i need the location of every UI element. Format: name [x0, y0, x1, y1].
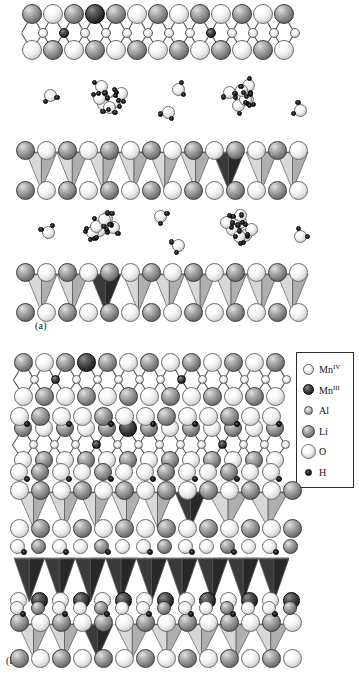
- atom-o-hydroxyl: [283, 539, 298, 554]
- atom-h: [20, 611, 26, 617]
- atom-slab-bottom: [262, 519, 281, 538]
- atom-h: [62, 611, 68, 617]
- atom-slab-top: [16, 141, 35, 160]
- atom-slab-bottom: [262, 649, 281, 668]
- atom-slab-bottom: [142, 181, 161, 200]
- atom-o-hydroxyl: [199, 539, 214, 554]
- atom-slab-bottom: [241, 519, 260, 538]
- atom-li: [56, 353, 75, 372]
- legend-item-label: Al: [319, 405, 329, 416]
- atom-slab-bottom: [73, 519, 92, 538]
- atom-h: [276, 476, 282, 482]
- atom-slab-bottom: [184, 181, 203, 200]
- atom-h: [247, 103, 252, 108]
- atom-o: [182, 387, 201, 406]
- atom-slab-top: [136, 481, 155, 500]
- atom-o-hydroxyl: [157, 407, 176, 426]
- atom-slab-top: [283, 481, 302, 500]
- atom-slab-bottom: [100, 303, 119, 322]
- atom-slab-top: [73, 613, 92, 632]
- atom-slab-top: [58, 141, 77, 160]
- atom-slab-top: [31, 613, 50, 632]
- atom-mn3: [218, 440, 227, 449]
- atom-slab-top: [184, 263, 203, 282]
- atom-slab-top: [121, 141, 140, 160]
- atom-li: [224, 353, 243, 372]
- atom-slab-top: [121, 263, 140, 282]
- atom-h: [109, 211, 114, 216]
- atom-mn4: [93, 375, 102, 384]
- atom-h: [107, 222, 112, 227]
- atom-h: [192, 476, 198, 482]
- atom-o-hydroxyl: [157, 601, 171, 615]
- atom-mn4: [269, 28, 279, 38]
- atom-o-hydroxyl: [115, 539, 130, 554]
- atom-o: [140, 387, 159, 406]
- atom-slab-top: [142, 141, 161, 160]
- atom-slab-bottom: [37, 303, 56, 322]
- atom-slab-top: [157, 613, 176, 632]
- atom-slab-bottom: [16, 303, 35, 322]
- atom-slab-top: [241, 481, 260, 500]
- atom-h: [91, 92, 96, 97]
- atom-li: [169, 40, 189, 60]
- atom-o-hydroxyl: [73, 539, 88, 554]
- atom-h: [104, 611, 110, 617]
- atom-slab-top: [268, 141, 287, 160]
- atom-o-hydroxyl: [31, 463, 49, 481]
- atom-o: [106, 40, 126, 60]
- atom-li: [274, 4, 294, 24]
- atom-slab-top: [100, 263, 119, 282]
- atom-h: [221, 94, 226, 99]
- atom-li: [127, 40, 147, 60]
- atom-li: [161, 387, 180, 406]
- atom-slab-bottom: [31, 649, 50, 668]
- atom-h: [66, 476, 72, 482]
- atom-h: [181, 92, 186, 97]
- atom-li: [266, 353, 285, 372]
- atom-slab-top: [58, 263, 77, 282]
- atom-o-hydroxyl: [73, 601, 87, 615]
- atom-slab-bottom: [247, 181, 266, 200]
- atom-slab-bottom: [79, 181, 98, 200]
- atom-o-hydroxyl: [157, 463, 175, 481]
- atom-h: [147, 549, 153, 555]
- atom-o: [64, 40, 84, 60]
- atom-slab-bottom: [220, 519, 239, 538]
- atom-o-hydroxyl: [31, 407, 50, 426]
- atom-slab-bottom: [115, 649, 134, 668]
- atom-o-hydroxyl: [283, 601, 297, 615]
- atom-h: [117, 104, 122, 109]
- atom-h: [38, 227, 43, 232]
- atom-mn4: [240, 375, 249, 384]
- atom-o: [169, 4, 189, 24]
- atom-o: [56, 387, 75, 406]
- atom-h: [169, 239, 174, 244]
- atom-slab-bottom: [163, 181, 182, 200]
- atom-h: [174, 250, 179, 255]
- atom-o-hydroxyl: [73, 407, 92, 426]
- panel-b: [0, 350, 300, 662]
- atom-o-hydroxyl: [115, 601, 129, 615]
- atom-slab-top: [247, 141, 266, 160]
- atom-h: [231, 549, 237, 555]
- atom-mn4: [164, 28, 174, 38]
- panel-a-label: (a): [35, 320, 47, 331]
- atom-mn4: [260, 440, 269, 449]
- atom-o-hydroxyl: [199, 601, 213, 615]
- atom-slab-top: [115, 613, 134, 632]
- atom-o: [98, 387, 117, 406]
- legend-item-al: Al: [297, 400, 353, 421]
- panel-b-structure: [0, 350, 300, 660]
- atom-slab-bottom: [178, 649, 197, 668]
- atom-slab-bottom: [58, 303, 77, 322]
- atom-h: [234, 476, 240, 482]
- atom-o-hydroxyl: [241, 463, 259, 481]
- sphere-icon: [297, 442, 319, 463]
- atom-li: [253, 40, 273, 60]
- atom-o-hydroxyl: [241, 407, 260, 426]
- atom-slab-top: [178, 481, 197, 500]
- atom-mn3: [77, 353, 96, 372]
- atom-h: [101, 224, 106, 229]
- atom-h: [189, 549, 195, 555]
